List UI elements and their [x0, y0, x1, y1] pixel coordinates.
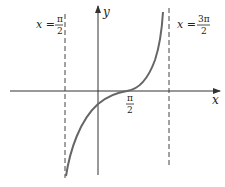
right-asymptote-den: 2: [201, 26, 207, 36]
left-asymptote-lhs: x =: [36, 18, 55, 31]
right-asymptote-num: 3π: [198, 14, 210, 24]
left-asymptote-num: π: [57, 14, 63, 24]
x-intercept-num: π: [127, 93, 133, 103]
x-intercept-den: 2: [127, 105, 133, 115]
graph-canvas: y x x = π 2 x = 3π 2 π 2: [0, 0, 225, 187]
tangent-graph: y x x = π 2 x = 3π 2 π 2: [0, 0, 225, 187]
x-axis-label: x: [212, 93, 219, 107]
right-asymptote-lhs: x =: [177, 18, 196, 31]
left-asymptote-den: 2: [57, 26, 63, 36]
y-axis-label: y: [102, 5, 110, 19]
tangent-curve: [66, 12, 163, 176]
